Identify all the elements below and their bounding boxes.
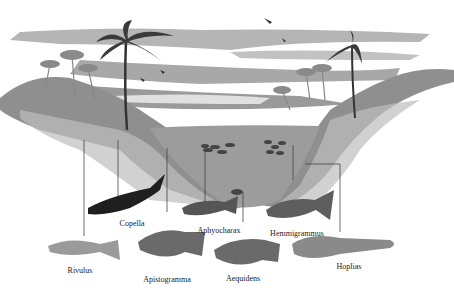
- label-aequidens: Aequidens: [226, 274, 260, 283]
- river-illustration: [0, 0, 454, 301]
- label-hemmigrammus: Hemmigrammus: [270, 229, 324, 238]
- label-apistogramma: Apistogramma: [143, 275, 191, 284]
- rivulus-fish: [48, 240, 120, 260]
- label-copella: Copella: [120, 219, 145, 228]
- hoplias-fish: [292, 236, 394, 258]
- label-rivulus: Rivulus: [68, 266, 93, 275]
- aequidens-fish: [214, 239, 280, 264]
- label-hoplias: Hoplias: [337, 262, 362, 271]
- label-aphyocharax: Aphyocharax: [197, 226, 240, 235]
- apistogramma-fish: [138, 230, 205, 256]
